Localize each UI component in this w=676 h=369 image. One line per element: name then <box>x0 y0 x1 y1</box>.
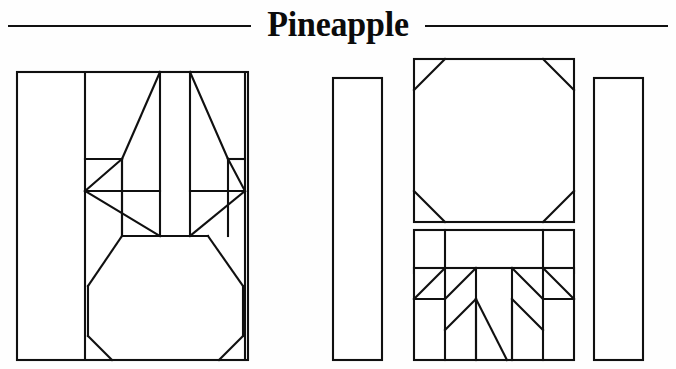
header-rule-left <box>8 25 251 27</box>
pattern-plate: Pineapple <box>0 0 676 369</box>
page-title: Pineapple <box>265 6 411 44</box>
header-rule-right <box>425 25 668 27</box>
crown-panel-piece <box>414 268 574 360</box>
crown-panel-frame <box>414 268 574 360</box>
side-strip-left <box>333 78 382 360</box>
body-octagon-piece <box>414 59 574 222</box>
center-bar-frame <box>414 230 574 273</box>
pattern-artboard <box>0 46 676 369</box>
plate-header: Pineapple <box>0 0 676 50</box>
center-bar-piece <box>414 230 574 273</box>
assembled-block <box>17 72 248 360</box>
side-strip-right <box>594 78 643 360</box>
body-piece-frame <box>414 59 574 222</box>
pattern-drawing <box>0 46 676 369</box>
